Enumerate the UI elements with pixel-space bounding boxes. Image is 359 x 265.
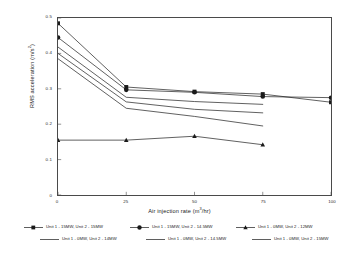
x-tick-label: 25 [114,199,138,204]
y-axis-title-superscript: 2 [27,46,32,48]
legend-marker-circle-icon [130,224,149,231]
x-axis-title-tail: /hr) [202,208,211,214]
series-line [58,136,263,144]
data-point-marker [260,94,265,99]
legend-marker-line-icon [252,236,271,243]
legend-marker-line-icon [146,236,165,243]
data-point-marker [329,100,331,104]
x-axis-title-base: Air injection rate (m [148,208,199,214]
y-tick-label: 0.4 [28,50,52,55]
legend-item: Unit 1 - 0MW, Unit 2 - 14MW [40,236,146,243]
legend-item-label: Unit 1 - 0MW, Unit 2 - 15MW [274,237,329,241]
legend-item: Unit 1 - 0MW, Unit 2 - 15MW [252,236,358,243]
chart-figure: RMS acceleration (m/s2) 00.10.20.30.40.5… [0,0,359,265]
y-tick-label: 0.1 [28,157,52,162]
x-axis-title: Air injection rate (m3/hr) [0,206,359,214]
y-axis-title-tail: ) [29,44,35,46]
plot-canvas [58,18,331,195]
legend-item: Unit 1 - 0MW, Unit 2 - 12MW [236,224,342,231]
data-point-marker [58,21,60,25]
x-tick-label: 0 [45,199,69,204]
y-axis-title: RMS acceleration (m/s2) [27,16,35,136]
plot-area [57,17,332,196]
y-tick-label: 0.3 [28,86,52,91]
x-tick-label: 100 [320,199,344,204]
chart-legend: Unit 1 - 15MW, Unit 2 - 15MW Unit 1 - 15… [24,224,342,248]
data-point-marker [192,90,197,95]
legend-marker-line-icon [40,236,59,243]
legend-row-2: Unit 1 - 0MW, Unit 2 - 14MW Unit 1 - 0MW… [24,236,358,243]
y-axis-title-base: RMS acceleration (m/s [29,48,35,108]
series-line [58,53,263,112]
legend-item-label: Unit 1 - 0MW, Unit 2 - 14.5MW [168,237,226,241]
legend-item-label: Unit 1 - 15MW, Unit 2 - 15MW [46,225,103,229]
y-tick-label: 0.5 [28,14,52,19]
legend-row-1: Unit 1 - 15MW, Unit 2 - 15MW Unit 1 - 15… [24,224,342,231]
x-tick-label: 75 [251,199,275,204]
series-line [58,59,263,126]
legend-item-label: Unit 1 - 15MW, Unit 2 - 14.5MW [152,225,213,229]
data-point-marker [329,95,331,100]
legend-item: Unit 1 - 0MW, Unit 2 - 14.5MW [146,236,252,243]
legend-marker-triangle-icon [236,224,255,231]
legend-item-label: Unit 1 - 0MW, Unit 2 - 12MW [258,225,313,229]
x-tick-label: 50 [183,199,207,204]
data-point-marker [124,88,129,93]
series-line [58,47,263,104]
legend-item: Unit 1 - 15MW, Unit 2 - 15MW [24,224,130,231]
legend-item: Unit 1 - 15MW, Unit 2 - 14.5MW [130,224,236,231]
y-tick-label: 0.2 [28,121,52,126]
legend-item-label: Unit 1 - 0MW, Unit 2 - 14MW [62,237,117,241]
y-tick-label: 0 [28,193,52,198]
legend-marker-square-icon [24,224,43,231]
